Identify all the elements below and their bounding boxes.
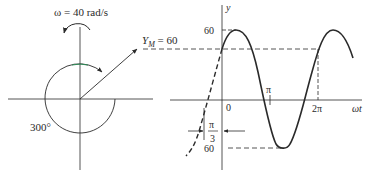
x-axis-label: ωt [352,103,362,114]
sinusoid-curve [222,30,353,148]
tick-label-zero: 0 [226,102,231,113]
omega-rotation-icon [64,24,90,33]
amplitude-label: YM = 60 [142,34,178,49]
rotation-arc-arrow [50,64,102,80]
tick-label-pi: π [266,84,271,95]
phasor-diagram: ω = 40 rad/s YM = 60 300° [8,6,178,170]
tick-label-top-60: 60 [204,25,214,36]
phasor-sinusoid-diagram: ω = 40 rad/s YM = 60 300° y ωt 60 60 0 π… [0,0,370,176]
tick-label-bottom-60: 60 [204,143,214,154]
y-axis-label: y [225,2,231,13]
sinusoid-graph: y ωt 60 60 0 π 2π π 3 [170,2,362,170]
tick-label-2pi: 2π [312,103,322,114]
angle-label: 300° [30,121,51,133]
omega-label: ω = 40 rad/s [54,6,108,18]
phase-numerator: π [209,119,214,130]
phase-denominator: 3 [210,133,215,144]
phasor-vector [80,49,137,99]
